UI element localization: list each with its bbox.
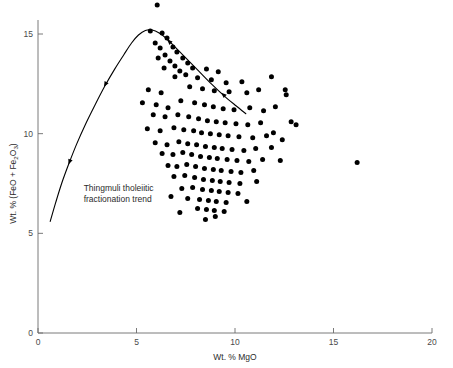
data-point bbox=[190, 65, 195, 70]
data-point bbox=[234, 158, 239, 163]
data-point bbox=[212, 88, 217, 93]
data-point bbox=[294, 122, 299, 127]
data-point bbox=[221, 106, 226, 111]
data-point bbox=[148, 29, 153, 34]
data-point bbox=[226, 190, 231, 195]
data-point bbox=[168, 194, 173, 199]
data-point bbox=[211, 104, 216, 109]
data-point bbox=[200, 187, 205, 192]
data-point bbox=[191, 128, 196, 133]
data-point bbox=[230, 147, 235, 152]
data-point bbox=[355, 160, 360, 165]
y-tick-label: 0 bbox=[28, 328, 33, 338]
data-point bbox=[181, 127, 186, 132]
data-point bbox=[174, 49, 179, 54]
data-point bbox=[202, 166, 207, 171]
trend-label-line2: fractionation trend bbox=[84, 194, 152, 204]
data-point bbox=[202, 102, 207, 107]
data-point bbox=[246, 159, 251, 164]
x-tick-label: 0 bbox=[36, 337, 41, 347]
data-point bbox=[177, 210, 182, 215]
data-point bbox=[261, 108, 266, 113]
x-tick-label: 10 bbox=[230, 337, 240, 347]
data-point bbox=[159, 90, 164, 95]
data-point bbox=[153, 140, 158, 145]
data-point bbox=[179, 186, 184, 191]
data-point bbox=[180, 150, 185, 155]
data-point bbox=[197, 197, 202, 202]
y-tick-label: 15 bbox=[24, 29, 34, 39]
data-point bbox=[195, 75, 200, 80]
data-point bbox=[174, 164, 179, 169]
data-point bbox=[219, 168, 224, 173]
data-point bbox=[244, 199, 249, 204]
data-point bbox=[171, 125, 176, 130]
data-point bbox=[236, 134, 241, 139]
data-point bbox=[238, 170, 243, 175]
data-point bbox=[171, 174, 176, 179]
data-point bbox=[155, 3, 160, 8]
data-point bbox=[170, 152, 175, 157]
data-point bbox=[225, 157, 230, 162]
data-point bbox=[185, 196, 190, 201]
data-point bbox=[233, 121, 238, 126]
data-point bbox=[209, 77, 214, 82]
data-point bbox=[182, 173, 187, 178]
data-point bbox=[283, 87, 288, 92]
x-tick-label: 5 bbox=[134, 337, 139, 347]
data-point bbox=[212, 208, 217, 213]
data-point bbox=[213, 214, 218, 219]
data-point bbox=[162, 65, 167, 70]
data-point bbox=[183, 72, 188, 77]
data-point bbox=[165, 142, 170, 147]
data-point bbox=[166, 105, 171, 110]
data-point bbox=[260, 157, 265, 162]
data-point bbox=[178, 98, 183, 103]
data-point bbox=[227, 89, 232, 94]
data-point bbox=[154, 102, 159, 107]
data-point bbox=[196, 116, 201, 121]
data-point bbox=[163, 52, 168, 57]
data-point bbox=[170, 44, 175, 49]
data-point bbox=[195, 206, 200, 211]
data-point bbox=[198, 154, 203, 159]
y-tick-label: 10 bbox=[24, 129, 34, 139]
data-point bbox=[207, 155, 212, 160]
data-point bbox=[232, 107, 237, 112]
data-point bbox=[217, 189, 222, 194]
trend-label-line1: Thingmuli tholeiitic bbox=[84, 183, 155, 193]
chart-figure: 05101520051015 Wt. % MgOWt. % (FeO + Fe2… bbox=[0, 0, 453, 368]
data-point bbox=[273, 104, 278, 109]
data-point bbox=[237, 181, 242, 186]
data-point bbox=[212, 145, 217, 150]
data-point bbox=[172, 63, 177, 68]
data-point bbox=[253, 146, 258, 151]
scatter-plot: 05101520051015 Wt. % MgOWt. % (FeO + Fe2… bbox=[0, 0, 453, 368]
data-point bbox=[166, 163, 171, 168]
data-point bbox=[194, 142, 199, 147]
data-point bbox=[203, 217, 208, 222]
data-point bbox=[206, 198, 211, 203]
data-point bbox=[209, 188, 214, 193]
data-point bbox=[156, 55, 161, 60]
data-point bbox=[160, 31, 165, 36]
data-point bbox=[140, 100, 145, 105]
data-point bbox=[210, 178, 215, 183]
data-point bbox=[245, 122, 250, 127]
data-point bbox=[204, 207, 209, 212]
data-point bbox=[235, 191, 240, 196]
data-point bbox=[256, 87, 261, 92]
data-point bbox=[214, 119, 219, 124]
data-point bbox=[205, 118, 210, 123]
data-point bbox=[211, 167, 216, 172]
data-point bbox=[223, 120, 228, 125]
data-point bbox=[192, 175, 197, 180]
data-point bbox=[151, 112, 156, 117]
data-point bbox=[226, 133, 231, 138]
data-point bbox=[258, 120, 263, 125]
data-point bbox=[153, 40, 158, 45]
data-point bbox=[146, 87, 151, 92]
data-point bbox=[269, 74, 274, 79]
x-axis-title: Wt. % MgO bbox=[213, 352, 257, 362]
data-point bbox=[187, 84, 192, 89]
